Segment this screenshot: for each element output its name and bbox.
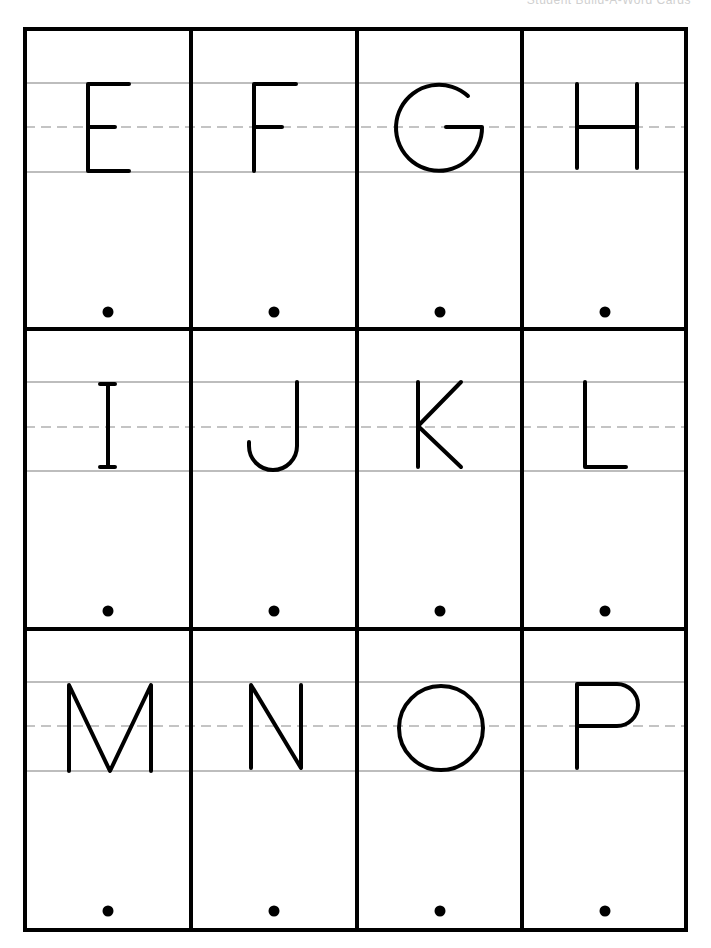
dot-marker xyxy=(600,307,611,318)
letter-card-sheet xyxy=(0,0,711,948)
dot-marker xyxy=(600,906,611,917)
dot-marker xyxy=(435,307,446,318)
letter-glyph-o xyxy=(399,686,483,770)
card-grid-borders xyxy=(25,29,686,930)
letter-glyph-m xyxy=(69,685,151,771)
letter-glyph-l xyxy=(585,382,626,467)
dot-marker xyxy=(103,307,114,318)
dot-marker xyxy=(269,307,280,318)
dot-marker xyxy=(103,906,114,917)
dot-marker xyxy=(600,606,611,617)
dot-marker xyxy=(269,906,280,917)
dot-marker xyxy=(269,606,280,617)
letter-glyph-i xyxy=(100,384,115,467)
letter-glyph-p xyxy=(577,684,638,768)
dot-marker xyxy=(103,606,114,617)
dot-marker xyxy=(435,906,446,917)
dot-marker xyxy=(435,606,446,617)
letter-glyph-h xyxy=(577,84,637,168)
letter-glyph-k xyxy=(418,382,461,467)
letter-glyph-g xyxy=(396,85,482,171)
